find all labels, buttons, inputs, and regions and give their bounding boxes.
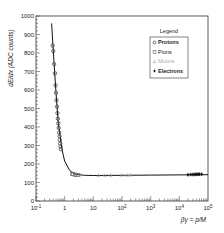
y-tick-label: 700 <box>24 69 35 75</box>
x-tick-label: 10-1 <box>31 204 42 212</box>
y-axis: 01002003004005006007008009001000 <box>21 13 40 204</box>
x-tick-label: 103 <box>146 204 156 212</box>
x-tick-label: 105 <box>203 204 213 212</box>
y-tick-label: 200 <box>24 161 35 167</box>
legend-label: Pions <box>158 49 172 55</box>
y-tick-label: 400 <box>24 124 35 130</box>
x-axis-title: βγ = p/M <box>180 216 207 224</box>
y-tick-label: 600 <box>24 87 35 93</box>
y-tick-label: 800 <box>24 50 35 56</box>
y-tick-label: 100 <box>24 180 35 186</box>
legend-label: Muons <box>158 58 175 64</box>
electron-marker <box>200 172 202 176</box>
y-tick-label: 1000 <box>21 13 35 19</box>
legend-label: Protons <box>158 39 179 45</box>
electron-marker <box>187 173 189 177</box>
x-tick-label: 102 <box>117 204 127 212</box>
x-tick-label: 1 <box>63 205 67 211</box>
legend-label: Electrons <box>158 68 183 74</box>
y-axis-title: dE/dx (ADC counts) <box>7 29 15 86</box>
legend-title: Legend <box>160 28 178 34</box>
legend: LegendProtonsPionsMuonsElectrons <box>150 28 188 78</box>
chart: 01002003004005006007008009001000 10-1110… <box>0 0 224 233</box>
y-tick-label: 0 <box>31 198 35 204</box>
y-tick-label: 500 <box>24 106 35 112</box>
x-axis: 10-1110102103104105 <box>31 196 213 211</box>
x-tick-label: 10 <box>90 205 97 211</box>
y-tick-label: 900 <box>24 32 35 38</box>
y-tick-label: 300 <box>24 143 35 149</box>
x-tick-label: 104 <box>175 204 185 212</box>
